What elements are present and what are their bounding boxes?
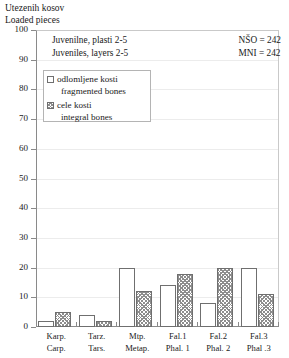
x-axis-label-en: Tars. <box>75 343 119 355</box>
y-tick-label: 50 <box>19 173 28 184</box>
bar-integral <box>177 274 193 327</box>
bar-integral <box>55 312 71 327</box>
x-axis-label-sl: Fal.3 <box>237 331 281 343</box>
chart-title: Utezenih kosov <box>5 2 64 14</box>
y-tick-label: 30 <box>19 232 28 243</box>
stat-mni: MNI = 242 <box>239 47 281 60</box>
legend-label: cele kostiintegral bones <box>57 100 150 123</box>
legend-label: odlomljene kostifragmented bones <box>57 74 150 97</box>
x-axis-label-1: Karp.Carp. <box>34 331 78 354</box>
x-axis-label-en: Phal. 2 <box>196 343 240 355</box>
legend-swatch-fragmented <box>47 76 54 83</box>
x-axis: Karp.Carp.Tarz.Tars.Mtp.Metap.Fal.1Phal.… <box>36 331 279 357</box>
y-tick-label: 0 <box>24 321 29 332</box>
y-tick-label: 60 <box>19 143 28 154</box>
stat-nso: NŠO = 242 <box>239 34 281 47</box>
bar-integral <box>96 321 112 327</box>
group-caption: Juvenilne, plasti 2-5 Juveniles, layers … <box>52 34 128 60</box>
x-axis-label-sl: Karp. <box>34 331 78 343</box>
y-axis: 1009080706050403020100 <box>0 30 36 327</box>
x-axis-label-sl: Tarz. <box>75 331 119 343</box>
legend-label-sl: odlomljene kosti <box>57 74 150 86</box>
y-tick-label: 80 <box>19 83 28 94</box>
bar-group-fal.2 <box>198 30 239 327</box>
bar-fragmented <box>200 303 216 327</box>
y-tick-label: 10 <box>19 291 28 302</box>
x-axis-label-6: Fal.3Phal .3 <box>237 331 281 354</box>
x-axis-label-en: Phal. 1 <box>156 343 200 355</box>
legend-label-en: fragmented bones <box>57 86 150 98</box>
y-tick-label: 40 <box>19 202 28 213</box>
group-caption-sl: Juvenilne, plasti 2-5 <box>52 34 128 47</box>
legend-entry-fragmented: odlomljene kostifragmented bones <box>47 74 150 97</box>
chart-legend: odlomljene kostifragmented bonescele kos… <box>43 70 151 122</box>
bar-fragmented <box>119 268 135 327</box>
bar-integral <box>217 268 233 327</box>
chart-subtitle: Loaded pieces <box>5 14 60 26</box>
x-axis-label-en: Carp. <box>34 343 78 355</box>
x-axis-label-sl: Fal.2 <box>196 331 240 343</box>
y-tick-mark <box>31 327 36 328</box>
bar-group-fal.1 <box>158 30 199 327</box>
bar-fragmented <box>241 268 257 327</box>
x-axis-label-3: Mtp.Metap. <box>115 331 159 354</box>
x-axis-label-5: Fal.2Phal. 2 <box>196 331 240 354</box>
legend-entry-integral: cele kostiintegral bones <box>47 100 150 123</box>
y-tick-label: 90 <box>19 54 28 65</box>
x-axis-label-sl: Mtp. <box>115 331 159 343</box>
x-axis-label-en: Metap. <box>115 343 159 355</box>
stats-box: NŠO = 242 MNI = 242 <box>239 34 281 60</box>
y-tick-label: 20 <box>19 262 28 273</box>
bar-fragmented <box>38 321 54 327</box>
x-axis-label-sl: Fal.1 <box>156 331 200 343</box>
x-axis-label-en: Phal .3 <box>237 343 281 355</box>
bar-group-fal.3 <box>239 30 280 327</box>
legend-label-sl: cele kosti <box>57 100 150 112</box>
legend-swatch-integral <box>47 102 54 109</box>
x-axis-label-2: Tarz.Tars. <box>75 331 119 354</box>
group-caption-en: Juveniles, layers 2-5 <box>52 47 128 60</box>
y-tick-label: 70 <box>19 113 28 124</box>
x-axis-label-4: Fal.1Phal. 1 <box>156 331 200 354</box>
x-tick-mark <box>278 322 279 327</box>
bar-fragmented <box>79 315 95 327</box>
legend-label-en: integral bones <box>57 112 150 124</box>
bar-integral <box>258 294 274 327</box>
y-tick-label: 100 <box>15 24 29 35</box>
bar-integral <box>136 291 152 327</box>
bar-fragmented <box>160 285 176 327</box>
